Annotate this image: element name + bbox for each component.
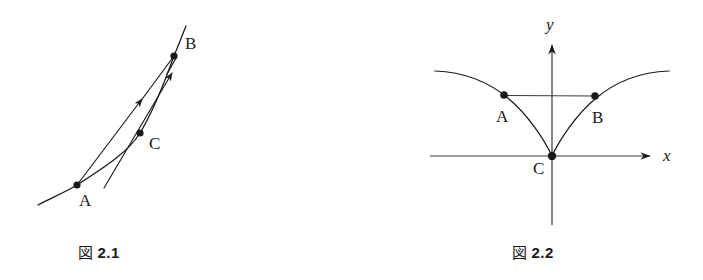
figure-2-2: A B C y x 図2.2 <box>350 0 703 280</box>
point-label-a: A <box>496 108 508 125</box>
figure-caption-kanji: 図 <box>78 241 94 262</box>
secant-line-c-b-upper <box>167 58 176 74</box>
figure-2-2-canvas <box>350 0 703 280</box>
secant-line-a-b-arrow <box>77 99 142 185</box>
curve-right-branch <box>552 71 669 156</box>
figure-caption-kanji: 図 <box>512 241 528 262</box>
figure-2-1-canvas <box>0 0 350 280</box>
point-c-marker <box>548 152 556 160</box>
figure-2-2-caption: 図2.2 <box>512 241 554 262</box>
point-a-marker <box>500 91 508 99</box>
point-label-a: A <box>79 192 91 209</box>
figure-2-1-caption: 図2.1 <box>78 241 120 262</box>
point-b-marker <box>170 52 177 59</box>
point-label-b: B <box>592 109 603 126</box>
figure-2-1: A C B 図2.1 <box>0 0 350 280</box>
point-label-c: C <box>149 135 160 152</box>
chord-a-b <box>504 96 595 97</box>
y-axis-label: y <box>546 16 554 33</box>
point-a-marker <box>73 181 80 188</box>
point-b-marker <box>591 92 599 100</box>
figure-caption-number: 2.1 <box>98 244 120 261</box>
curve-left-branch <box>435 71 552 156</box>
point-label-b: B <box>185 35 196 52</box>
curve-through-points <box>38 26 186 205</box>
point-label-c: C <box>533 160 544 177</box>
x-axis-label: x <box>663 147 671 164</box>
figure-caption-number: 2.2 <box>532 244 554 261</box>
figure-page: A C B 図2.1 <box>0 0 703 280</box>
point-c-marker <box>136 129 143 136</box>
